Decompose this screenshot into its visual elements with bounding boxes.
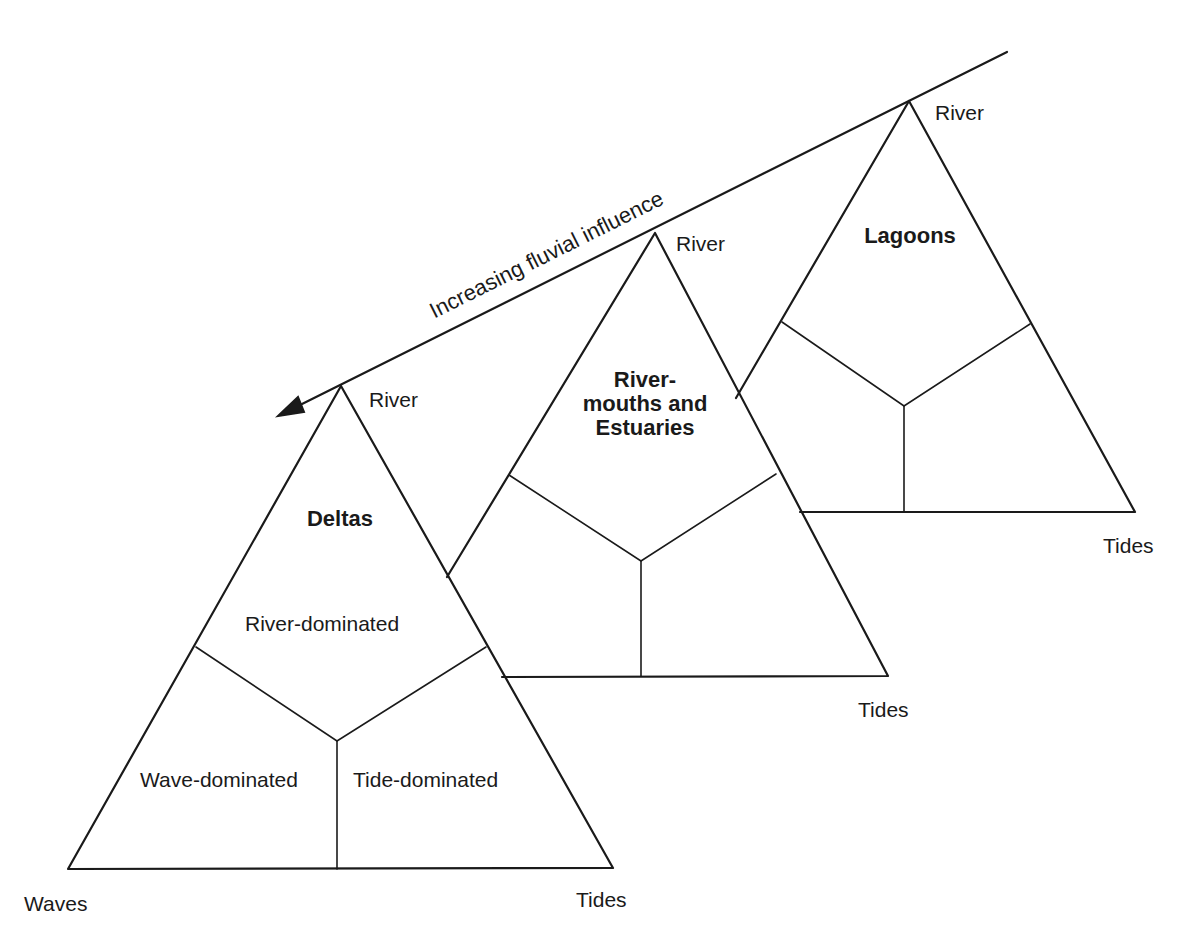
rivermouths-right-label: Tides — [858, 699, 909, 720]
deltas-right-label: Tides — [576, 889, 627, 910]
deltas-apex-label: River — [369, 389, 418, 410]
rivermouths-apex-label: River — [676, 233, 725, 254]
deltas-region-tide-dominated: Tide-dominated — [353, 769, 498, 790]
deltas-region-river-dominated: River-dominated — [245, 613, 399, 634]
lagoons-title: Lagoons — [855, 224, 965, 248]
lagoons-triangle — [736, 101, 1135, 512]
deltas-divider-upper — [196, 647, 486, 741]
arrow-head-icon — [278, 397, 304, 416]
lagoons-apex-label: River — [935, 102, 984, 123]
rivermouths-title: River- mouths and Estuaries — [565, 368, 725, 439]
deltas-region-wave-dominated: Wave-dominated — [140, 769, 298, 790]
lagoons-divider-upper — [782, 322, 1030, 406]
deltas-title: Deltas — [280, 507, 400, 531]
lagoons-outline — [736, 101, 1135, 512]
lagoons-right-label: Tides — [1103, 535, 1154, 556]
deltas-left-label: Waves — [24, 893, 87, 914]
rivermouths-divider-upper — [509, 474, 776, 561]
